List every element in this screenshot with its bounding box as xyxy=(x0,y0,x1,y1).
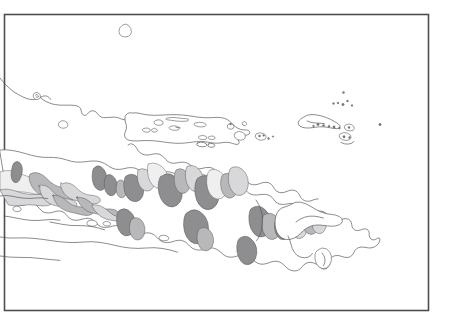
kangean-dot-6 xyxy=(313,125,315,127)
kangean-satellite-dot-3 xyxy=(349,137,351,139)
nusa-penida-islet xyxy=(315,248,332,269)
islet-east-madura-4 xyxy=(255,133,266,140)
madura-interior-lagoon-4 xyxy=(151,129,157,133)
kangean-dot-2 xyxy=(322,124,324,126)
kangean-satellite-dot-2 xyxy=(343,136,345,138)
islet-dot-1 xyxy=(258,135,260,137)
kangean-dot-north-2 xyxy=(333,103,335,105)
islet-north-coast xyxy=(58,121,68,129)
madura-interior-lagoon-1 xyxy=(154,120,163,126)
kangean-dot-north-5 xyxy=(347,100,349,102)
kangean-dot-north-1 xyxy=(342,91,344,93)
kangean-dot-4 xyxy=(333,126,335,128)
kangean-dot-north-4 xyxy=(342,103,344,105)
kangean-dot-north-3 xyxy=(337,102,339,104)
islet-east-madura-2 xyxy=(242,122,246,126)
islet-south-3 xyxy=(159,235,169,241)
madura-interior-lagoon-6 xyxy=(194,122,206,127)
coastal-knot-west xyxy=(33,92,40,99)
kangean-satellite-dot-1 xyxy=(348,126,350,128)
kangean-dot-east-1 xyxy=(379,123,381,125)
islet-south-4 xyxy=(13,206,21,211)
kangean-dot-small-1 xyxy=(230,123,232,125)
islet-dot-4 xyxy=(272,136,274,138)
islet-dot-3 xyxy=(268,138,270,140)
kangean-dot-3 xyxy=(328,125,330,127)
islet-east-madura-3 xyxy=(234,131,245,140)
map-canvas xyxy=(0,0,453,333)
madura-interior-lagoon-3 xyxy=(142,128,150,132)
kangean-dot-north-6 xyxy=(351,105,353,107)
madura-interior-lagoon-7 xyxy=(198,135,207,139)
islet-south-1 xyxy=(87,220,98,226)
kangean-dot-1 xyxy=(317,123,319,125)
islet-dot-2 xyxy=(263,135,265,137)
kangean-dot-5 xyxy=(339,127,341,129)
madura-interior-lagoon-8 xyxy=(208,136,215,140)
islet-south-2 xyxy=(103,221,111,226)
map-figure xyxy=(0,0,453,333)
